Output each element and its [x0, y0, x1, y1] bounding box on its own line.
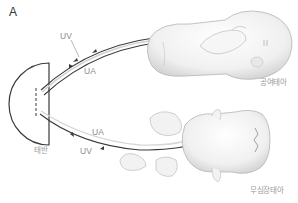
donor-twin-figure — [147, 11, 292, 79]
arrow-icon — [73, 58, 78, 62]
lower-uv-label: UV — [80, 147, 92, 156]
placenta-label: 태반 — [34, 147, 47, 155]
arrow-icon — [92, 49, 97, 53]
trap-sequence-illustration — [0, 0, 298, 203]
panel-label: A — [9, 6, 17, 18]
donor-twin-label: 공여태아 — [260, 79, 287, 87]
acardiac-twin-label: 무심장태아 — [250, 187, 284, 195]
lower-ua-label: UA — [92, 128, 104, 137]
upper-uv-label: UV — [60, 32, 72, 41]
diagram-canvas: A UV UA UA UV 태반 공여태아 무심장태아 — [0, 0, 298, 203]
placenta-shape — [9, 63, 49, 145]
upper-ua-label: UA — [84, 67, 96, 76]
arrow-icon — [100, 146, 104, 150]
acardiac-twin-figure — [120, 110, 270, 182]
